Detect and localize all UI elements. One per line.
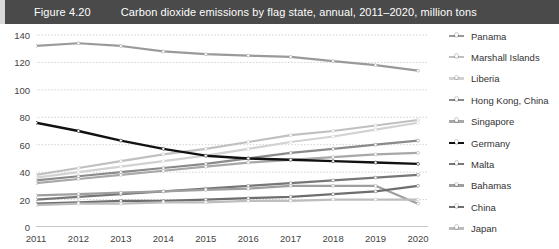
data-point	[77, 202, 80, 205]
y-axis-tick-label: 80	[19, 112, 30, 123]
x-axis-labels: 2011201220132014201520162017201820192020	[36, 228, 428, 249]
data-point	[417, 69, 420, 72]
legend-item-china[interactable]: China	[449, 201, 496, 213]
series-line-panama	[36, 43, 418, 70]
data-point	[119, 139, 122, 142]
data-point	[36, 198, 38, 201]
data-point	[374, 128, 377, 131]
data-point	[332, 130, 335, 133]
data-point	[332, 147, 335, 150]
legend-item-liberia[interactable]: Liberia	[449, 73, 500, 85]
data-point	[332, 135, 335, 138]
data-point	[289, 134, 292, 137]
data-point	[374, 176, 377, 179]
data-point	[289, 55, 292, 58]
data-point	[332, 198, 335, 201]
y-axis-tick-label: 140	[14, 30, 30, 41]
data-point	[374, 124, 377, 127]
y-axis-tick-label: 40	[19, 167, 30, 178]
legend-swatch-icon	[449, 203, 464, 212]
data-point	[374, 184, 377, 187]
data-point	[417, 173, 420, 176]
data-point	[332, 156, 335, 159]
legend-swatch-icon	[449, 96, 464, 105]
data-point	[77, 193, 80, 196]
line-chart-svg	[36, 24, 428, 227]
x-axis-tick-label: 2019	[365, 233, 386, 244]
legend-swatch-icon	[449, 224, 464, 233]
data-point	[417, 151, 420, 154]
data-point	[417, 139, 420, 142]
data-point	[247, 140, 250, 143]
data-point	[332, 179, 335, 182]
x-axis-tick-label: 2017	[280, 233, 301, 244]
legend-item-singapore[interactable]: Singapore	[449, 116, 514, 128]
data-point	[36, 121, 38, 124]
legend-swatch-icon	[449, 181, 464, 190]
data-point	[247, 187, 250, 190]
series-line-hong-kong-china	[36, 141, 418, 181]
y-axis-tick-label: 0	[25, 222, 30, 233]
data-point	[77, 171, 80, 174]
y-axis-tick-label: 20	[19, 194, 30, 205]
data-point	[77, 130, 80, 133]
data-point	[332, 160, 335, 163]
legend-swatch-icon	[449, 32, 464, 41]
data-point	[289, 199, 292, 202]
data-point	[77, 42, 80, 45]
data-point	[374, 161, 377, 164]
data-point	[162, 190, 165, 193]
legend-item-malta[interactable]: Malta	[449, 158, 494, 170]
x-axis-tick-label: 2013	[110, 233, 131, 244]
x-axis-tick-label: 2016	[238, 233, 259, 244]
data-point	[247, 161, 250, 164]
data-point	[204, 154, 207, 157]
data-point	[247, 157, 250, 160]
legend-label: Bahamas	[471, 180, 511, 191]
data-point	[332, 184, 335, 187]
data-point	[119, 191, 122, 194]
legend-item-germany[interactable]: Germany	[449, 137, 510, 149]
figure-title-bar: Figure 4.20 Carbon dioxide emissions by …	[0, 0, 559, 24]
legend-label: China	[471, 202, 496, 213]
data-point	[332, 193, 335, 196]
data-point	[332, 60, 335, 63]
x-axis-tick-label: 2014	[153, 233, 174, 244]
data-point	[374, 198, 377, 201]
data-point	[204, 147, 207, 150]
x-axis-tick-label: 2015	[195, 233, 216, 244]
data-point	[289, 184, 292, 187]
legend-swatch-icon	[449, 53, 464, 62]
x-axis-tick-label: 2012	[68, 233, 89, 244]
data-point	[247, 147, 250, 150]
legend-item-hong-kong-china[interactable]: Hong Kong, China	[449, 94, 549, 106]
data-point	[119, 44, 122, 47]
data-point	[374, 64, 377, 67]
data-point	[119, 165, 122, 168]
data-point	[247, 199, 250, 202]
legend-label: Singapore	[471, 116, 514, 127]
plot-canvas	[36, 24, 428, 227]
legend-label: Panama	[471, 31, 506, 42]
data-point	[417, 121, 420, 124]
data-point	[119, 173, 122, 176]
data-point	[289, 158, 292, 161]
legend-swatch-icon	[449, 139, 464, 148]
legend-item-marshall-islands[interactable]: Marshall Islands	[449, 51, 540, 63]
data-point	[374, 153, 377, 156]
data-point	[119, 160, 122, 163]
legend-label: Malta	[471, 159, 494, 170]
data-point	[417, 198, 420, 201]
data-point	[289, 140, 292, 143]
legend-item-japan[interactable]: Japan	[449, 223, 497, 235]
data-point	[204, 165, 207, 168]
legend-item-bahamas[interactable]: Bahamas	[449, 180, 511, 192]
data-point	[36, 204, 38, 207]
legend-item-panama[interactable]: Panama	[449, 30, 506, 42]
legend-swatch-icon	[449, 74, 464, 83]
data-point	[289, 195, 292, 198]
data-point	[162, 169, 165, 172]
data-point	[119, 202, 122, 205]
x-axis-tick-label: 2020	[407, 233, 428, 244]
figure-container: Figure 4.20 Carbon dioxide emissions by …	[0, 0, 559, 249]
